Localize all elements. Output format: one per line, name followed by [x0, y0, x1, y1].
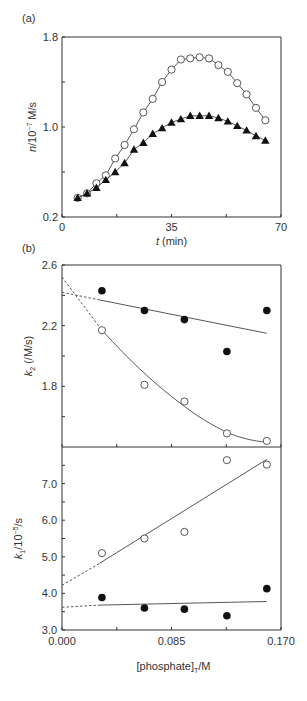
fit-line: [99, 459, 266, 563]
data-point-open-circle: [121, 141, 128, 148]
figure: (a)0.21.01.803570t (min)n/10−7 M/s (b)1.…: [0, 0, 307, 701]
panel-a-rate-vs-time: (a)0.21.01.803570t (min)n/10−7 M/s: [22, 12, 287, 247]
fit-extrapolation-dashed: [62, 292, 99, 300]
data-point-open-circle: [181, 528, 188, 535]
y-tick-label: 1.8: [43, 31, 58, 43]
data-point-filled-triangle: [177, 115, 185, 122]
data-point-filled-triangle: [261, 136, 269, 143]
data-point-filled-triangle: [120, 159, 128, 166]
data-point-filled-circle: [223, 612, 231, 620]
data-point-open-circle: [130, 126, 137, 133]
data-point-filled-circle: [181, 316, 189, 324]
series-filled-circle: [62, 585, 271, 620]
data-point-open-circle: [196, 54, 203, 61]
x-tick-label: 0.085: [158, 635, 186, 647]
data-point-filled-circle: [181, 605, 189, 613]
data-point-filled-triangle: [130, 145, 138, 152]
data-point-open-circle: [181, 398, 188, 405]
data-point-filled-circle: [263, 307, 271, 315]
data-point-open-circle: [215, 62, 222, 69]
series-open-circle: [62, 457, 270, 586]
data-point-open-circle: [223, 430, 230, 437]
y-axis-label: k2 (/M/s): [22, 336, 36, 377]
fit-extrapolation-dashed: [62, 277, 102, 330]
y-tick-label: 1.0: [43, 121, 58, 133]
data-point-filled-circle: [141, 604, 149, 612]
data-point-filled-triangle: [195, 112, 203, 119]
data-point-filled-circle: [98, 287, 106, 295]
fit-extrapolation-dashed: [62, 563, 99, 585]
data-point-open-circle: [149, 95, 156, 102]
x-tick-label: 0.170: [267, 635, 295, 647]
panel-b-k2-vs-phosphate: (b)1.82.22.6k2 (/M/s): [22, 242, 281, 447]
data-point-open-circle: [98, 327, 105, 334]
data-point-open-circle: [141, 381, 148, 388]
series-filled-circle: [62, 287, 271, 355]
fit-extrapolation-dashed: [62, 605, 99, 607]
data-point-filled-triangle: [233, 122, 241, 129]
fit-curve: [102, 330, 267, 442]
x-tick-label: 35: [165, 221, 177, 233]
x-tick-label: 70: [275, 221, 287, 233]
y-tick-label: 0.2: [43, 211, 58, 223]
x-axis-label: [phosphate]T/M: [136, 660, 210, 674]
data-point-filled-triangle: [224, 117, 232, 124]
y-tick-label: 5.0: [42, 551, 57, 563]
series-filled-triangle: [73, 112, 269, 201]
data-point-open-circle: [187, 55, 194, 62]
fit-line: [99, 602, 266, 606]
y-tick-label: 6.0: [42, 514, 57, 526]
panel-b-label: (b): [22, 242, 35, 254]
y-tick-label: 2.2: [42, 320, 57, 332]
data-point-open-circle: [98, 550, 105, 557]
data-point-filled-triangle: [186, 112, 194, 119]
data-point-filled-triangle: [149, 130, 157, 137]
data-point-open-circle: [234, 80, 241, 87]
data-point-open-circle: [223, 457, 230, 464]
data-point-filled-triangle: [167, 118, 175, 125]
data-point-open-circle: [168, 66, 175, 73]
chart-canvas: (a)0.21.01.803570t (min)n/10−7 M/s (b)1.…: [0, 0, 307, 701]
data-point-open-circle: [263, 461, 270, 468]
data-point-open-circle: [112, 155, 119, 162]
data-point-filled-triangle: [158, 124, 166, 131]
data-point-open-circle: [263, 437, 270, 444]
x-tick-label: 0: [59, 221, 65, 233]
y-tick-label: 1.8: [42, 380, 57, 392]
data-point-open-circle: [243, 91, 250, 98]
panel-a-label: (a): [22, 12, 35, 24]
data-point-open-circle: [177, 56, 184, 63]
data-point-filled-circle: [263, 585, 271, 593]
data-point-filled-circle: [223, 348, 231, 356]
y-tick-label: 2.6: [42, 259, 57, 271]
data-point-open-circle: [262, 117, 269, 124]
series-open-circle: [62, 277, 270, 444]
data-point-filled-circle: [141, 307, 149, 315]
data-point-filled-triangle: [205, 112, 213, 119]
data-point-filled-triangle: [252, 132, 260, 139]
x-axis-label: t (min): [156, 235, 187, 247]
data-point-open-circle: [140, 109, 147, 116]
data-point-open-circle: [159, 78, 166, 85]
y-axis-label: n/10−7 M/s: [26, 101, 38, 152]
data-point-filled-circle: [98, 594, 106, 602]
y-tick-label: 4.0: [42, 587, 57, 599]
y-axis-label: k1/10−5/s: [12, 517, 26, 559]
data-point-filled-triangle: [242, 126, 250, 133]
data-point-open-circle: [224, 68, 231, 75]
panel-b-k1-vs-phosphate: 3.04.05.06.07.00.0000.0850.170[phosphate…: [12, 447, 295, 674]
data-point-open-circle: [205, 55, 212, 62]
data-point-open-circle: [252, 104, 259, 111]
data-point-open-circle: [141, 535, 148, 542]
y-tick-label: 7.0: [42, 478, 57, 490]
x-tick-label: 0.000: [48, 635, 76, 647]
